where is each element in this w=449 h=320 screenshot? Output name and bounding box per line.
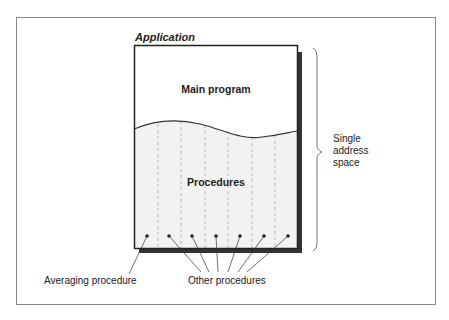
procedures-label: Procedures <box>187 176 245 188</box>
other-procedures-label: Other procedures <box>188 275 266 286</box>
diagram-canvas: Application Main program Procedures <box>0 0 449 320</box>
address-space-label: Single address space <box>333 133 371 168</box>
main-program-label: Main program <box>181 83 250 95</box>
averaging-procedure-label: Averaging procedure <box>44 275 137 286</box>
brace-icon <box>313 48 322 251</box>
application-title: Application <box>134 31 195 43</box>
